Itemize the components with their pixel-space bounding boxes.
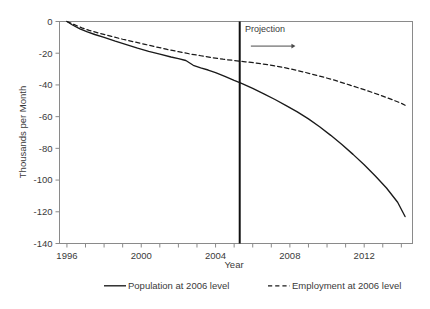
legend-label-0: Population at 2006 level [128,280,229,291]
x-tick-label-2: 2004 [205,250,226,261]
x-tick-label-3: 2008 [279,250,300,261]
chart-legend: Population at 2006 levelEmployment at 20… [104,280,401,291]
projection-annotation-label: Projection [245,24,285,34]
chart-figure: 0-20-40-60-80-100-120-140 19962000200420… [0,0,430,309]
y-tick-label-7: -140 [33,238,52,249]
y-tick-label-5: -100 [33,174,52,185]
y-tick-label-1: -20 [39,48,53,59]
y-tick-label-2: -40 [39,79,53,90]
y-tick-label-3: -60 [39,111,53,122]
x-axis-title: Year [224,259,243,270]
legend-label-1: Employment at 2006 level [292,280,401,291]
y-axis: 0-20-40-60-80-100-120-140 [33,16,59,249]
y-tick-label-6: -120 [33,206,52,217]
x-axis: 19962000200420082012 [56,244,401,261]
line-chart: 0-20-40-60-80-100-120-140 19962000200420… [0,0,430,309]
x-tick-label-0: 1996 [56,250,77,261]
y-tick-label-4: -80 [39,143,53,154]
y-tick-label-0: 0 [47,16,52,27]
y-axis-title: Thousands per Month [17,86,28,178]
plot-area-border [60,22,413,244]
x-tick-label-1: 2000 [131,250,152,261]
x-tick-label-4: 2012 [354,250,375,261]
